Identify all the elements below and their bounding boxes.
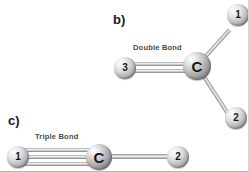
atom-3-label: 3 xyxy=(122,63,128,73)
atom-2-label-b: 2 xyxy=(233,113,239,123)
molecular-bond-diagram: b) Double Bond 3 C 1 2 c) Triple Bond xyxy=(0,0,249,172)
panel-b-label: b) xyxy=(113,13,125,26)
atom-carbon-label-b: C xyxy=(192,59,203,74)
atom-carbon-sphere-b: C xyxy=(183,52,211,80)
atom-2-sphere-b: 2 xyxy=(225,107,247,129)
double-bond-caption: Double Bond xyxy=(133,44,182,52)
atom-carbon-label-c: C xyxy=(94,150,105,165)
atom-2-sphere-c: 2 xyxy=(167,146,189,168)
atom-1-label-b: 1 xyxy=(235,10,241,20)
atom-1-sphere-c: 1 xyxy=(7,146,29,168)
atom-2-label-c: 2 xyxy=(175,152,181,162)
atom-1-label-c: 1 xyxy=(15,152,21,162)
atom-1-sphere-b: 1 xyxy=(227,4,249,26)
triple-bond-caption: Triple Bond xyxy=(35,133,78,141)
atom-3-sphere: 3 xyxy=(114,57,136,79)
panel-c-label: c) xyxy=(8,114,20,127)
atom-carbon-sphere-c: C xyxy=(86,144,112,170)
